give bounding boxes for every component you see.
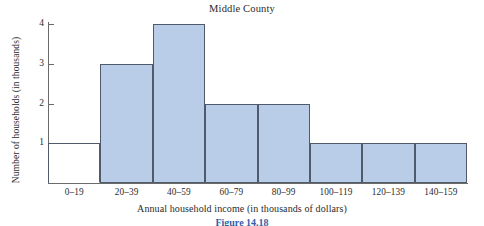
bar-40-59[interactable] [153, 24, 205, 183]
bar-140-159[interactable] [415, 143, 467, 183]
chart-title: Middle County [0, 3, 484, 14]
bar-100-119[interactable] [310, 143, 362, 183]
x-tick-label: 140–159 [405, 187, 477, 197]
bar-120-139[interactable] [362, 143, 414, 183]
bar-80-99[interactable] [258, 104, 310, 184]
y-tick-label: 3 [24, 58, 44, 68]
histogram-figure: Middle County Number of households (in t… [0, 0, 484, 226]
x-axis-label: Annual household income (in thousands of… [0, 203, 484, 214]
x-axis-line [48, 183, 468, 184]
y-axis-label: Number of households (in thousands) [11, 25, 25, 195]
y-tick-label: 2 [24, 98, 44, 108]
bar-0-19[interactable] [48, 143, 100, 183]
y-tick-label: 4 [24, 18, 44, 28]
bar-series [48, 22, 468, 183]
bar-20-39[interactable] [100, 64, 152, 183]
y-tick-label: 1 [24, 137, 44, 147]
bar-60-79[interactable] [205, 104, 257, 184]
figure-caption: Figure 14.18 [0, 217, 484, 226]
